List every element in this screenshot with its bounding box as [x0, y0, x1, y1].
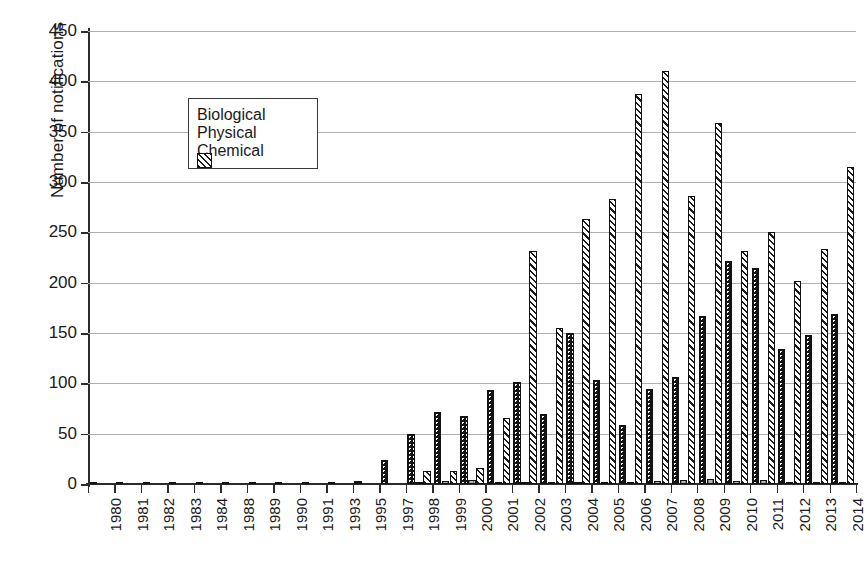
x-axis-tick	[777, 484, 778, 493]
y-axis-tick	[81, 232, 88, 234]
x-axis-tick-label: 1990	[293, 498, 310, 531]
x-axis-tick-label: 2005	[610, 498, 627, 531]
bar-chemical-2014	[847, 167, 854, 484]
x-axis-tick	[485, 484, 486, 493]
x-axis-tick	[379, 484, 380, 493]
y-axis-tick	[81, 333, 88, 335]
bar-chemical-2011	[768, 232, 775, 484]
bar-biological-2003	[540, 414, 547, 484]
x-axis-tick-label: 1991	[319, 498, 336, 531]
bar-chemical-2001	[503, 418, 510, 484]
bar-chart: Number of notifications 0501001502002503…	[0, 0, 866, 562]
bar-biological-2004	[566, 333, 573, 484]
bar-group	[143, 31, 166, 484]
x-axis-tick	[803, 484, 804, 493]
x-axis-tick	[114, 484, 115, 493]
x-axis-tick-label: 2012	[796, 498, 813, 531]
bar-chemical-2003	[556, 328, 563, 484]
bar-biological-2001	[487, 390, 494, 484]
bar-chemical-2000	[476, 468, 483, 484]
x-axis-tick	[724, 484, 725, 493]
x-axis-tick-label: 1980	[107, 498, 124, 531]
bar-group	[619, 31, 642, 484]
x-axis-tick	[591, 484, 592, 493]
bar-group	[778, 31, 801, 484]
bar-group	[354, 31, 377, 484]
x-axis-tick	[353, 484, 354, 493]
x-axis-tick	[750, 484, 751, 493]
x-axis-tick-label: 2007	[663, 498, 680, 531]
y-axis-tick	[81, 182, 88, 184]
chart-legend: Biological Physical Chemical	[188, 98, 318, 169]
bar-chemical-2004	[582, 219, 589, 484]
legend-item-physical: Physical	[197, 125, 309, 141]
x-axis-tick-label: 2002	[531, 498, 548, 531]
y-axis-tick	[81, 383, 88, 385]
bar-biological-2010	[725, 261, 732, 484]
x-axis-tick-label: 2010	[743, 498, 760, 531]
x-axis-layer: 1980198119821983198419881989199019911993…	[88, 484, 856, 562]
y-axis-tick	[81, 484, 88, 486]
x-axis-tick-label: 1989	[266, 498, 283, 531]
y-axis-tick-label: 100	[49, 373, 77, 393]
bar-biological-1999	[434, 412, 441, 484]
bar-group	[90, 31, 113, 484]
y-axis-tick	[81, 132, 88, 134]
bar-biological-2013	[805, 335, 812, 484]
x-axis-tick	[618, 484, 619, 493]
y-axis-tick-label: 250	[49, 222, 77, 242]
x-axis-tick-label: 2013	[822, 498, 839, 531]
bar-group	[407, 31, 430, 484]
bar-group	[593, 31, 616, 484]
bar-chemical-1999	[450, 471, 457, 484]
x-axis-tick	[512, 484, 513, 493]
x-axis-tick	[141, 484, 142, 493]
x-axis-tick-label: 1983	[187, 498, 204, 531]
bar-group	[328, 31, 351, 484]
bar-chemical-2006	[635, 94, 642, 484]
bar-chemical-2013	[821, 249, 828, 484]
y-axis-tick	[81, 434, 88, 436]
bar-group	[646, 31, 669, 484]
x-axis-tick	[194, 484, 195, 493]
x-axis-tick	[406, 484, 407, 493]
bar-group	[725, 31, 748, 484]
y-axis-tick	[81, 283, 88, 285]
legend-label-biological: Biological	[197, 107, 265, 123]
bar-biological-2006	[619, 425, 626, 484]
x-axis-tick	[830, 484, 831, 493]
y-axis-tick-label: 450	[49, 21, 77, 41]
bar-group	[513, 31, 536, 484]
y-axis-tick-label: 150	[49, 323, 77, 343]
bar-biological-1997	[381, 460, 388, 484]
x-axis-tick-label: 1981	[134, 498, 151, 531]
x-axis-tick	[697, 484, 698, 493]
legend-item-chemical: Chemical	[197, 143, 309, 159]
x-axis-tick-label: 1982	[160, 498, 177, 531]
x-axis-tick-label: 1984	[213, 498, 230, 531]
x-axis-tick	[644, 484, 645, 493]
y-axis-tick	[81, 31, 88, 33]
x-axis-tick	[671, 484, 672, 493]
x-axis-tick	[88, 484, 89, 493]
legend-label-physical: Physical	[197, 125, 257, 141]
bar-group	[805, 31, 828, 484]
bar-group	[460, 31, 483, 484]
bar-biological-2000	[460, 416, 467, 484]
bar-chemical-2009	[715, 123, 722, 484]
bar-biological-2002	[513, 382, 520, 484]
legend-item-biological: Biological	[197, 107, 309, 123]
x-axis-tick-label: 1997	[399, 498, 416, 531]
x-axis-tick	[326, 484, 327, 493]
y-axis-tick-label: 300	[49, 172, 77, 192]
bar-biological-2005	[593, 380, 600, 484]
y-axis-tick-label: 350	[49, 122, 77, 142]
bar-group	[566, 31, 589, 484]
bar-biological-2014	[831, 314, 838, 484]
bar-group	[672, 31, 695, 484]
bar-biological-2009	[699, 316, 706, 484]
bar-group	[381, 31, 404, 484]
x-axis-tick	[167, 484, 168, 493]
bar-group	[116, 31, 139, 484]
bar-biological-2007	[646, 389, 653, 484]
